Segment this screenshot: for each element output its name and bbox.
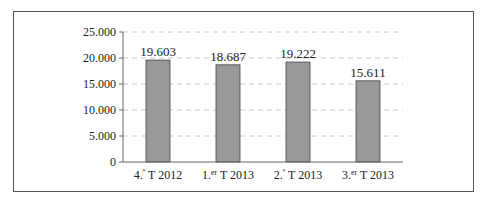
- bar: [356, 81, 380, 162]
- bar-value-label: 19.222: [280, 46, 316, 61]
- bar: [216, 65, 240, 162]
- y-tick-label: 20.000: [83, 51, 116, 65]
- x-category-label: 1.er T 2013: [202, 168, 254, 182]
- x-axis: 4.º T 20121.er T 20132.º T 20133.er T 20…: [123, 162, 403, 182]
- y-tick-label: 15.000: [83, 77, 116, 91]
- x-category-label: 4.º T 2012: [134, 168, 182, 182]
- bar-chart: 05.00010.00015.00020.00025.000 19.60318.…: [0, 0, 489, 205]
- bar-value-label: 19.603: [140, 44, 176, 59]
- y-tick-label: 5.000: [89, 129, 116, 143]
- bar-value-label: 15.611: [350, 65, 385, 80]
- bars: 19.60318.68719.22215.611: [140, 44, 386, 162]
- bar: [286, 62, 310, 162]
- y-tick-label: 10.000: [83, 103, 116, 117]
- x-category-label: 3.er T 2013: [342, 168, 394, 182]
- y-tick-label: 0: [110, 155, 116, 169]
- bar: [146, 60, 170, 162]
- x-category-label: 2.º T 2013: [274, 168, 322, 182]
- y-axis: 05.00010.00015.00020.00025.000: [83, 25, 123, 169]
- y-tick-label: 25.000: [83, 25, 116, 39]
- bar-value-label: 18.687: [210, 49, 246, 64]
